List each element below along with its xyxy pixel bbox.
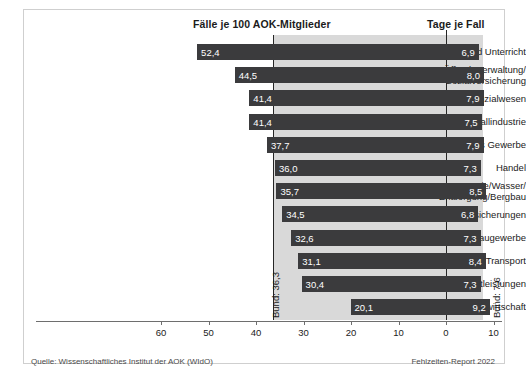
bar-value-tage: 7,9 [466,139,479,150]
bar-segment: 20,19,2 [351,299,490,315]
bar-value-tage: 7,9 [466,93,479,104]
bar-segment: 41,47,9 [249,90,483,106]
bar-segment: 34,56,8 [282,206,478,222]
plot-area: Erziehung und Unterricht52,46,9Öffentl. … [0,0,526,382]
bar-value-tage: 6,8 [461,209,474,220]
bar-value-tage: 8,0 [467,70,480,81]
bund-faelle-annotation: Bund: 36,3 [270,272,281,318]
bar-value-faelle: 36,0 [279,163,298,174]
x-axis-tick-label: 60 [156,327,167,338]
bar-value-tage: 8,5 [469,186,482,197]
bar-value-faelle: 20,1 [355,302,374,313]
bar-value-faelle: 52,4 [201,47,220,58]
bar-row: 35,78,5 [0,183,526,199]
bar-value-tage: 9,2 [472,302,485,313]
bar-value-faelle: 30,4 [306,279,325,290]
x-axis-tick-label: 10 [393,327,404,338]
bar-row: 52,46,9 [0,44,526,60]
bar-row: 37,77,9 [0,137,526,153]
bar-row: 34,56,8 [0,206,526,222]
bar-value-faelle: 41,4 [253,93,272,104]
x-axis-tick-label: 10 [488,327,499,338]
bar-value-faelle: 35,7 [280,186,299,197]
bar-value-tage: 7,5 [464,116,477,127]
x-axis-tick [399,321,400,325]
bar-value-faelle: 37,7 [271,139,290,150]
x-axis-tick [256,321,257,325]
bar-value-tage: 6,9 [462,47,475,58]
source-note: Quelle: Wissenschaftliches Institut der … [31,357,213,366]
bar-segment: 52,46,9 [197,44,479,60]
bar-row: 44,58,0 [0,67,526,83]
x-axis-tick [161,321,162,325]
bar-value-faelle: 41,4 [253,116,272,127]
x-axis-tick [351,321,352,325]
bar-row: 30,47,3 [0,276,526,292]
bar-segment: 35,78,5 [276,183,486,199]
bar-value-faelle: 34,5 [286,209,305,220]
x-axis-tick-label: 40 [251,327,262,338]
bar-row: 20,19,2 [0,299,526,315]
bar-row: 32,67,3 [0,230,526,246]
x-axis-tick-label: 0 [443,327,448,338]
bar-value-tage: 8,4 [469,255,482,266]
bar-segment: 36,07,3 [275,160,481,176]
bar-segment: 44,58,0 [235,67,484,83]
x-axis-tick-label: 20 [346,327,357,338]
bar-row: 31,18,4 [0,253,526,269]
bar-value-faelle: 44,5 [239,70,258,81]
x-axis-tick-label: 50 [203,327,214,338]
bar-value-tage: 7,3 [463,232,476,243]
bar-row: 36,07,3 [0,160,526,176]
bar-value-tage: 7,3 [463,163,476,174]
bar-segment: 32,67,3 [291,230,481,246]
bar-value-tage: 7,3 [463,279,476,290]
bar-segment: 31,18,4 [298,253,486,269]
bar-row: 41,47,5 [0,114,526,130]
bar-segment: 41,47,5 [249,114,481,130]
bund-tage-annotation: Bund: 7,6 [491,277,502,318]
bar-segment: 37,77,9 [267,137,484,153]
x-axis-tick [304,321,305,325]
x-axis-tick-label: 30 [298,327,309,338]
bar-segment: 30,47,3 [302,276,481,292]
report-note: Fehlzeiten-Report 2022 [411,357,495,366]
x-axis-tick [494,321,495,325]
bar-row: 41,47,9 [0,90,526,106]
x-axis-tick [446,321,447,325]
bar-value-faelle: 31,1 [302,255,321,266]
bar-value-faelle: 32,6 [295,232,314,243]
fehlzeiten-chart-figure: Fälle je 100 AOK-Mitglieder Tage je Fall… [0,0,526,382]
x-axis-tick [209,321,210,325]
x-axis-line [36,321,502,322]
